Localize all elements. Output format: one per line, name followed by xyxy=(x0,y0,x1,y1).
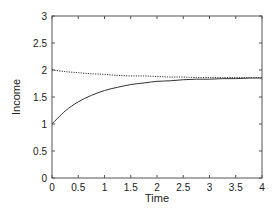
y-tick-label: 2.5 xyxy=(33,38,47,49)
y-tick-label: 1 xyxy=(41,119,47,130)
series-group xyxy=(52,70,262,124)
y-axis-ticks: 00.511.522.53 xyxy=(33,11,262,184)
y-tick-label: 3 xyxy=(41,11,47,22)
x-tick-label: 2.5 xyxy=(176,182,190,193)
y-tick-label: 1.5 xyxy=(33,92,47,103)
x-tick-label: 3 xyxy=(207,182,213,193)
y-tick-label: 0 xyxy=(41,173,47,184)
series-line-dotted xyxy=(52,70,262,78)
x-tick-label: 0.5 xyxy=(71,182,85,193)
y-axis-label: Income xyxy=(10,79,22,115)
x-axis-ticks: 00.511.522.533.54 xyxy=(49,16,265,193)
x-axis-label: Time xyxy=(145,192,169,204)
y-tick-label: 2 xyxy=(41,65,47,76)
x-tick-label: 3.5 xyxy=(229,182,243,193)
x-tick-label: 1.5 xyxy=(124,182,138,193)
plot-frame xyxy=(52,16,262,178)
line-chart: 00.511.522.533.54 00.511.522.53 Time Inc… xyxy=(0,0,278,209)
x-tick-label: 1 xyxy=(102,182,108,193)
x-tick-label: 4 xyxy=(259,182,265,193)
series-line-solid xyxy=(52,78,262,124)
x-tick-label: 0 xyxy=(49,182,55,193)
y-tick-label: 0.5 xyxy=(33,146,47,157)
